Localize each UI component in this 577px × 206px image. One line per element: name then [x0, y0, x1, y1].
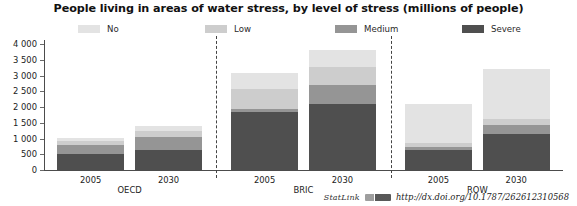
legend-item-severe: Severe	[462, 22, 521, 36]
y-tick-mark	[40, 170, 44, 171]
bar-bric-2005	[231, 73, 298, 170]
y-tick-mark	[40, 139, 44, 140]
bar-segment-medium	[135, 137, 202, 150]
legend-item-low: Low	[205, 22, 251, 36]
bar-segment-severe	[57, 154, 124, 170]
bar-segment-severe	[405, 150, 472, 170]
y-tick-mark	[40, 107, 44, 108]
legend-swatch-severe-icon	[462, 25, 484, 33]
bar-segment-severe	[135, 150, 202, 170]
bar-segment-severe	[483, 134, 550, 170]
y-tick-mark	[40, 60, 44, 61]
group-separator	[391, 36, 392, 178]
bar-segment-medium	[483, 125, 550, 134]
statlink-glyph-icon	[365, 194, 391, 201]
x-tick-label-row-2030: 2030	[506, 175, 527, 185]
bar-oecd-2005	[57, 138, 124, 170]
bar-segment-severe	[309, 104, 376, 170]
x-tick-label-oecd-2005: 2005	[80, 175, 101, 185]
bar-segment-low	[309, 67, 376, 85]
bar-segment-medium	[57, 145, 124, 154]
y-tick-label: 2 500	[13, 86, 37, 96]
legend-item-no: No	[78, 22, 119, 36]
bar-segment-low	[231, 89, 298, 109]
x-tick-label-row-2005: 2005	[428, 175, 449, 185]
legend-item-medium: Medium	[335, 22, 398, 36]
x-tick-label-bric-2005: 2005	[254, 175, 275, 185]
statlink-label: StatLink	[324, 193, 360, 202]
bar-oecd-2030	[135, 126, 202, 170]
chart-title: People living in areas of water stress, …	[0, 2, 577, 15]
bar-segment-no	[309, 50, 376, 67]
x-tick-label-oecd-2030: 2030	[158, 175, 179, 185]
x-tick-label-bric-2030: 2030	[332, 175, 353, 185]
y-tick-label: 3 000	[13, 71, 37, 81]
y-tick-mark	[40, 154, 44, 155]
y-tick-mark	[40, 123, 44, 124]
bar-segment-no	[231, 73, 298, 89]
y-tick-label: 1 000	[13, 134, 37, 144]
bar-segment-severe	[231, 112, 298, 170]
y-tick-label: 1 500	[13, 118, 37, 128]
bar-bric-2030	[309, 50, 376, 170]
bar-segment-medium	[309, 85, 376, 104]
y-axis-line	[44, 40, 45, 170]
bar-segment-no	[405, 104, 472, 143]
plot-area: 05001 0001 5002 0002 5003 0003 5004 000	[44, 44, 563, 170]
y-tick-mark	[40, 44, 44, 45]
y-tick-label: 3 500	[13, 55, 37, 65]
group-separator	[216, 36, 217, 178]
water-stress-chart: People living in areas of water stress, …	[0, 0, 577, 206]
bar-segment-no	[483, 69, 550, 119]
legend-swatch-low-icon	[205, 25, 227, 33]
bar-row-2005	[405, 104, 472, 170]
bar-row-2030	[483, 69, 550, 170]
statlink-url[interactable]: http://dx.doi.org/10.1787/262612310568	[396, 192, 569, 202]
y-tick-label: 500	[21, 149, 37, 159]
statlink-footer: StatLink http://dx.doi.org/10.1787/26261…	[0, 190, 577, 204]
legend-label: No	[107, 25, 119, 34]
chart-legend: NoLowMediumSevere	[0, 22, 577, 36]
legend-label: Severe	[491, 25, 521, 34]
legend-label: Low	[234, 25, 251, 34]
y-tick-mark	[40, 76, 44, 77]
legend-swatch-no-icon	[78, 25, 100, 33]
y-tick-mark	[40, 91, 44, 92]
legend-swatch-medium-icon	[335, 25, 357, 33]
legend-label: Medium	[364, 25, 398, 34]
y-tick-label: 0	[32, 165, 37, 175]
y-tick-label: 2 000	[13, 102, 37, 112]
y-tick-label: 4 000	[13, 39, 37, 49]
